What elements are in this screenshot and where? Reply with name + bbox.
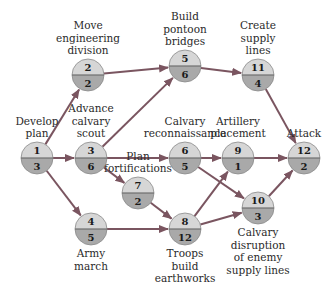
arrow-n8-to-n10: [200, 213, 241, 225]
task-number: 6: [182, 145, 189, 156]
task-label: plan: [25, 127, 48, 139]
task-duration: 12: [178, 232, 192, 243]
task-label: bridges: [165, 35, 205, 47]
task-number: 8: [182, 216, 189, 227]
task-number: 10: [251, 195, 265, 206]
task-duration: 5: [88, 232, 95, 243]
task-label: lines: [245, 44, 270, 56]
task-node-12: 122: [288, 142, 320, 174]
task-label: Attack: [286, 127, 322, 139]
task-number: 1: [34, 145, 41, 156]
task-node-11: 114: [242, 59, 274, 91]
nodes-layer: 13Developplan22Moveengineeringdivision36…: [15, 10, 321, 284]
task-label: engineering: [56, 32, 120, 44]
task-label: Build: [171, 10, 199, 22]
task-label: Artillery: [215, 115, 260, 127]
task-number: 9: [235, 145, 242, 156]
task-node-6: 65: [169, 142, 201, 174]
pert-network-diagram: 13Developplan22Moveengineeringdivision36…: [0, 0, 331, 294]
task-label: Advance: [67, 102, 113, 114]
task-label: Plan: [126, 150, 150, 162]
task-duration: 2: [301, 161, 308, 172]
arrow-n1-to-n4: [47, 171, 81, 216]
task-node-4: 45: [75, 213, 107, 245]
task-duration: 2: [135, 196, 142, 207]
task-duration: 6: [182, 69, 189, 80]
task-label: disruption: [231, 239, 286, 251]
task-label: march: [74, 260, 108, 272]
task-number: 11: [251, 62, 265, 73]
task-label: division: [67, 44, 108, 56]
task-node-10: 103: [242, 192, 274, 224]
task-label: pontoon: [163, 23, 207, 35]
task-label: calvary: [72, 115, 111, 127]
task-label: of enemy: [234, 251, 283, 263]
task-label: scout: [77, 127, 106, 139]
task-duration: 6: [88, 161, 95, 172]
task-label: supply lines: [226, 264, 289, 276]
task-node-5: 56: [169, 50, 201, 82]
arrow-n7-to-n8: [151, 203, 172, 219]
task-label: Calvary: [238, 226, 279, 238]
task-number: 3: [88, 145, 95, 156]
task-label: Troops: [167, 247, 204, 259]
arrow-n8-to-n9: [195, 172, 228, 217]
arrow-n2-to-n5: [104, 68, 168, 74]
task-number: 5: [182, 53, 189, 64]
task-duration: 4: [255, 78, 262, 89]
task-node-8: 812: [169, 213, 201, 245]
task-number: 12: [297, 145, 311, 156]
task-label: Army: [76, 247, 106, 259]
task-label: Calvary: [165, 115, 206, 127]
arrow-n5-to-n11: [201, 68, 241, 73]
task-label: earthworks: [155, 272, 216, 284]
task-duration: 1: [235, 161, 242, 172]
task-label: placement: [210, 127, 266, 139]
task-node-7: 72: [122, 177, 154, 209]
task-duration: 3: [255, 211, 262, 222]
task-node-3: 36: [75, 142, 107, 174]
task-label: Create: [240, 19, 276, 31]
task-node-9: 91: [222, 142, 254, 174]
task-number: 4: [88, 216, 95, 227]
task-number: 2: [85, 62, 92, 73]
task-node-1: 13: [21, 142, 53, 174]
task-label: build: [172, 260, 199, 272]
task-label: supply: [241, 32, 276, 44]
task-duration: 2: [85, 78, 92, 89]
task-number: 7: [135, 180, 142, 191]
task-label: Move: [73, 19, 102, 31]
task-label: Develop: [15, 115, 58, 127]
task-duration: 5: [182, 161, 189, 172]
task-label: fortifications: [104, 162, 172, 174]
task-duration: 3: [34, 161, 41, 172]
arrow-n10-to-n12: [269, 171, 293, 197]
task-node-2: 22: [72, 59, 104, 91]
